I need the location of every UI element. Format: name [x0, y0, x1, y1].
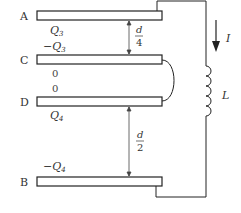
- gap-db-denominator: 2: [137, 142, 143, 153]
- wire-a-to-inductor: [157, 1, 206, 66]
- charge-c-top: −Q3: [43, 40, 66, 54]
- plate-a: [37, 11, 162, 20]
- inductor-label: L: [221, 89, 229, 102]
- plate-b-label: B: [20, 176, 28, 189]
- charge-c-bottom: 0: [52, 68, 58, 79]
- gap-db-numerator: d: [137, 129, 143, 140]
- gap-arrow-ac: [127, 21, 131, 54]
- charge-b-top: −Q4: [43, 160, 66, 174]
- plate-c: [37, 55, 162, 64]
- plate-d-label: D: [20, 96, 29, 109]
- charge-d-bottom: Q4: [50, 109, 64, 123]
- plate-a-label: A: [19, 10, 29, 23]
- current-arrow: [212, 20, 220, 52]
- wire-c-d: [162, 60, 174, 101]
- gap-ac-denominator: 4: [136, 37, 142, 48]
- wire-inductor-to-b: [156, 116, 206, 197]
- charge-d-top: 0: [52, 83, 58, 94]
- gap-arrow-db: [127, 107, 131, 176]
- plate-b: [37, 177, 162, 186]
- gap-ac-numerator: d: [136, 24, 142, 35]
- plate-d: [37, 97, 162, 106]
- plate-c-label: C: [20, 54, 28, 67]
- capacitor-inductor-diagram: A C D B Q3 −Q3 0 0 Q4 −Q4 d 4 d 2 I L: [0, 0, 241, 213]
- current-label: I: [225, 32, 231, 45]
- inductor-coil: [206, 66, 211, 116]
- charge-a-bottom: Q3: [50, 24, 64, 38]
